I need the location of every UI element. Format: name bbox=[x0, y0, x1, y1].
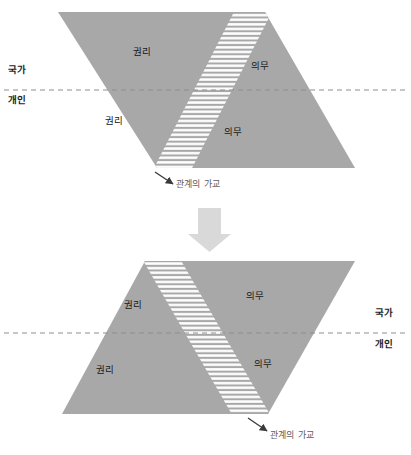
bottom-caption-arrow bbox=[248, 418, 267, 431]
bottom-zone-duties-lower: 의무 bbox=[254, 356, 272, 370]
top-caption-arrow bbox=[155, 172, 173, 184]
diagram-svg bbox=[0, 0, 411, 455]
bottom-zone-rights-lower: 권리 bbox=[96, 362, 114, 376]
bottom-parallelogram-group bbox=[4, 257, 407, 431]
figure-canvas: 국가 개인 권리 권리 의무 의무 관계의 가교 국가 개인 권리 권리 의무 … bbox=[0, 0, 411, 455]
top-zone-rights-upper: 권리 bbox=[133, 44, 151, 58]
top-bridge-caption: 관계의 가교 bbox=[176, 177, 220, 190]
top-zone-duties-upper: 의무 bbox=[251, 58, 269, 72]
bottom-zone-rights-upper: 권리 bbox=[124, 297, 142, 311]
top-parallelogram-group bbox=[4, 8, 407, 184]
top-zone-duties-lower: 의무 bbox=[224, 124, 242, 138]
transition-arrow-icon bbox=[188, 208, 231, 252]
bottom-axis-label-individual: 개인 bbox=[375, 336, 393, 350]
bottom-axis-label-state: 국가 bbox=[375, 305, 393, 319]
top-zone-rights-lower: 권리 bbox=[105, 113, 123, 127]
bottom-bridge-caption: 관계의 가교 bbox=[270, 428, 314, 441]
top-axis-label-state: 국가 bbox=[8, 62, 26, 76]
top-axis-label-individual: 개인 bbox=[8, 92, 26, 106]
bottom-zone-duties-upper: 의무 bbox=[246, 288, 264, 302]
